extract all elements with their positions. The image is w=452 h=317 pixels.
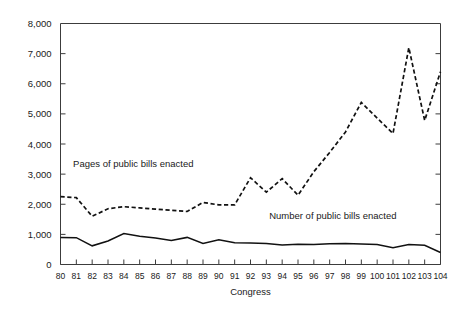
x-axis-tick-label: 93: [262, 271, 272, 281]
x-axis-tick-label: 94: [277, 271, 287, 281]
x-axis-tick-label: 100: [370, 271, 384, 281]
x-axis-tick-label: 86: [151, 271, 161, 281]
series-annotation-0: Pages of public bills enacted: [73, 158, 193, 169]
series-line-bills: [61, 233, 441, 252]
x-axis-tick-label: 81: [72, 271, 82, 281]
y-axis-tick-label: 4,000: [28, 139, 52, 150]
x-axis-tick-label: 88: [182, 271, 192, 281]
line-chart: 01,0002,0003,0004,0005,0006,0007,0008,00…: [0, 0, 452, 317]
x-axis-tick-label: 97: [325, 271, 335, 281]
x-axis-tick-label: 104: [433, 271, 447, 281]
x-axis-title: Congress: [230, 286, 271, 297]
x-axis-tick-label: 96: [309, 271, 319, 281]
x-axis-tick-label: 99: [357, 271, 367, 281]
y-axis-tick-label: 7,000: [28, 48, 52, 59]
series-annotation-1: Number of public bills enacted: [269, 210, 396, 221]
y-axis-tick-label: 8,000: [28, 18, 52, 29]
x-axis-tick-label: 82: [87, 271, 97, 281]
x-axis-tick-label: 89: [198, 271, 208, 281]
x-axis-tick-label: 83: [103, 271, 113, 281]
x-axis-tick-label: 85: [135, 271, 145, 281]
x-axis-tick-label: 84: [119, 271, 129, 281]
chart-container: 01,0002,0003,0004,0005,0006,0007,0008,00…: [0, 0, 452, 317]
y-axis-tick-label: 1,000: [28, 229, 52, 240]
x-axis-tick-label: 103: [418, 271, 432, 281]
plot-frame: [61, 24, 441, 265]
x-axis-tick-label: 90: [214, 271, 224, 281]
x-axis-tick-label: 95: [293, 271, 303, 281]
x-axis-tick-label: 98: [341, 271, 351, 281]
series-line-pages: [61, 48, 441, 217]
y-axis-tick-label: 6,000: [28, 78, 52, 89]
y-axis-tick-label: 3,000: [28, 169, 52, 180]
x-axis-tick-label: 102: [402, 271, 416, 281]
x-axis-tick-label: 80: [56, 271, 66, 281]
x-axis-tick-label: 91: [230, 271, 240, 281]
x-axis-tick-label: 87: [167, 271, 177, 281]
x-axis-tick-label: 101: [386, 271, 400, 281]
y-axis-tick-label: 0: [46, 259, 51, 270]
x-axis-tick-label: 92: [246, 271, 256, 281]
y-axis-tick-label: 5,000: [28, 108, 52, 119]
y-axis-tick-label: 2,000: [28, 199, 52, 210]
